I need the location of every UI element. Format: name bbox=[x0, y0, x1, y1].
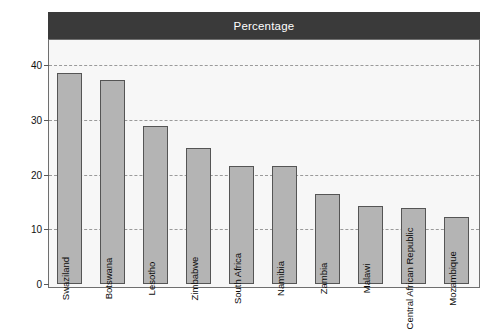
y-axis-label-10: 10 bbox=[8, 224, 42, 235]
bar-label: Lesotho bbox=[146, 262, 156, 296]
bar-label: Mozambique bbox=[447, 252, 457, 306]
bar: Lesotho bbox=[143, 126, 168, 284]
bar: Swaziland bbox=[57, 73, 82, 284]
bar-label: Zimbabwe bbox=[189, 257, 199, 301]
bar-label: Malawi bbox=[361, 264, 371, 294]
y-axis-label-20: 20 bbox=[8, 169, 42, 180]
chart-title: Percentage bbox=[48, 20, 480, 32]
bar: South Africa bbox=[229, 166, 254, 284]
bar-label: South Africa bbox=[232, 253, 242, 304]
bar: Central African Republic bbox=[401, 208, 426, 284]
bar: Namibia bbox=[272, 166, 297, 284]
bar: Botswana bbox=[100, 80, 125, 284]
bars-container: SwazilandBotswanaLesothoZimbabweSouth Af… bbox=[49, 40, 479, 287]
bar: Zimbabwe bbox=[186, 148, 211, 284]
y-axis-label-30: 30 bbox=[8, 114, 42, 125]
plot-area: SwazilandBotswanaLesothoZimbabweSouth Af… bbox=[48, 39, 480, 288]
y-axis-label-0: 0 bbox=[8, 279, 42, 290]
bar-label: Namibia bbox=[275, 262, 285, 297]
bar-label: Zambia bbox=[318, 263, 328, 295]
y-axis-labels: 010203040 bbox=[6, 39, 42, 288]
bar: Malawi bbox=[358, 206, 383, 284]
bar: Zambia bbox=[315, 194, 340, 284]
y-axis-label-40: 40 bbox=[8, 60, 42, 71]
bar-label: Swaziland bbox=[60, 257, 70, 300]
bar-label: Central African Republic bbox=[404, 228, 414, 330]
chart-title-bar: Percentage bbox=[48, 12, 480, 39]
bar: Mozambique bbox=[444, 217, 469, 284]
bar-label: Botswana bbox=[103, 258, 113, 300]
